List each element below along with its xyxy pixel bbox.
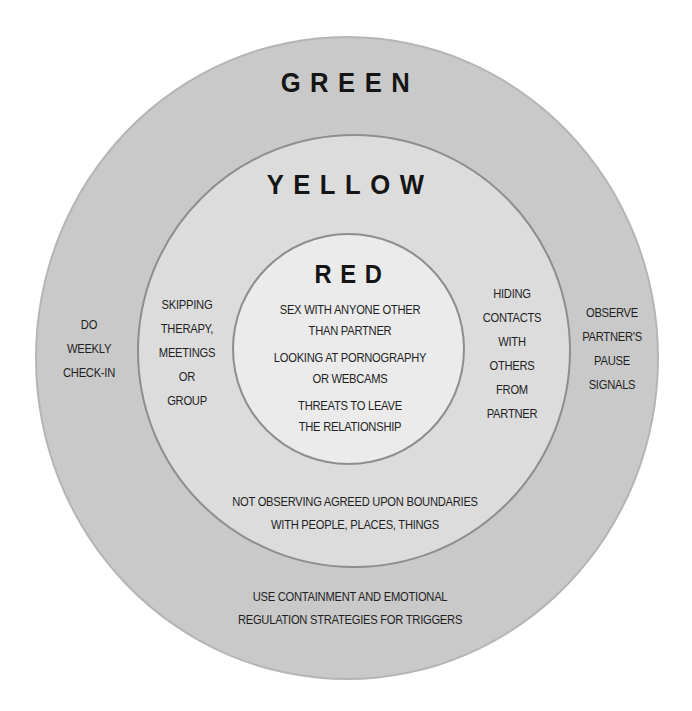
green-zone-title: GREEN xyxy=(255,70,445,97)
yellow-right-item: HIDING CONTACTS WITH OTHERS FROM PARTNER xyxy=(472,282,551,426)
yellow-zone-title: YELLOW xyxy=(255,172,445,199)
text-line: PAUSE xyxy=(573,349,650,373)
text-line: THERAPY, xyxy=(148,317,225,341)
text-line: CHECK-IN xyxy=(51,361,127,385)
text-line: SKIPPING xyxy=(148,293,225,317)
text-line: OR xyxy=(148,365,225,389)
text-line: OBSERVE xyxy=(573,301,650,325)
text-line: NOT OBSERVING AGREED UPON BOUNDARIES xyxy=(196,490,514,513)
text-line: OTHERS xyxy=(472,354,551,378)
text-line: MEETINGS xyxy=(148,341,225,365)
green-bottom-item: USE CONTAINMENT AND EMOTIONAL REGULATION… xyxy=(195,585,505,631)
text-line: USE CONTAINMENT AND EMOTIONAL xyxy=(195,585,505,608)
text-line: WEEKLY xyxy=(51,337,127,361)
red-item-1: SEX WITH ANYONE OTHER THAN PARTNER xyxy=(260,299,441,341)
red-item-2: LOOKING AT PORNOGRAPHY OR WEBCAMS xyxy=(260,347,441,389)
text-line: THAN PARTNER xyxy=(260,320,441,341)
text-line: GROUP xyxy=(148,389,225,413)
yellow-bottom-item: NOT OBSERVING AGREED UPON BOUNDARIES WIT… xyxy=(196,490,514,536)
text-line: SEX WITH ANYONE OTHER xyxy=(260,299,441,320)
text-line: HIDING xyxy=(472,282,551,306)
text-line: THREATS TO LEAVE xyxy=(260,395,441,416)
text-line: WITH PEOPLE, PLACES, THINGS xyxy=(196,513,514,536)
text-line: DO xyxy=(51,313,127,337)
red-item-3: THREATS TO LEAVE THE RELATIONSHIP xyxy=(260,395,441,437)
text-line: PARTNER'S xyxy=(573,325,650,349)
text-line: CONTACTS xyxy=(472,306,551,330)
green-right-item: OBSERVE PARTNER'S PAUSE SIGNALS xyxy=(573,301,650,397)
text-line: SIGNALS xyxy=(573,373,650,397)
text-line: PARTNER xyxy=(472,402,551,426)
red-zone-title: RED xyxy=(293,262,412,287)
text-line: OR WEBCAMS xyxy=(260,368,441,389)
text-line: WITH xyxy=(472,330,551,354)
text-line: LOOKING AT PORNOGRAPHY xyxy=(260,347,441,368)
green-left-item: DO WEEKLY CHECK-IN xyxy=(51,313,127,385)
text-line: THE RELATIONSHIP xyxy=(260,416,441,437)
yellow-left-item: SKIPPING THERAPY, MEETINGS OR GROUP xyxy=(148,293,225,413)
text-line: FROM xyxy=(472,378,551,402)
text-line: REGULATION STRATEGIES FOR TRIGGERS xyxy=(195,608,505,631)
